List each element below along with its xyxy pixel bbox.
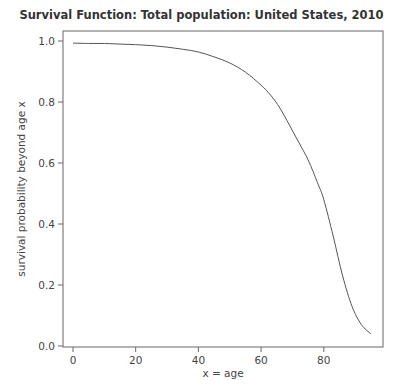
x-tick-label: 60 bbox=[254, 354, 267, 366]
survival-curve bbox=[73, 43, 371, 334]
y-tick-label: 0.0 bbox=[38, 340, 55, 352]
y-tick-label: 0.8 bbox=[38, 96, 55, 108]
x-tick-label: 80 bbox=[317, 354, 330, 366]
x-tick-label: 0 bbox=[70, 354, 77, 366]
y-tick-label: 0.4 bbox=[38, 218, 55, 230]
x-tick-label: 20 bbox=[129, 354, 142, 366]
y-tick-label: 0.2 bbox=[38, 279, 55, 291]
x-tick-label: 40 bbox=[192, 354, 205, 366]
chart-canvas: 0.00.20.40.60.81.0 020406080 x = age sur… bbox=[0, 0, 403, 387]
plot-frame bbox=[63, 31, 383, 347]
y-tick-label: 1.0 bbox=[38, 35, 55, 47]
y-tick-label: 0.6 bbox=[38, 157, 55, 169]
x-axis: 020406080 bbox=[70, 347, 331, 366]
x-axis-label: x = age bbox=[202, 367, 243, 379]
y-axis: 0.00.20.40.60.81.0 bbox=[38, 35, 63, 352]
y-axis-label: survival probability beyond age x bbox=[15, 101, 27, 276]
